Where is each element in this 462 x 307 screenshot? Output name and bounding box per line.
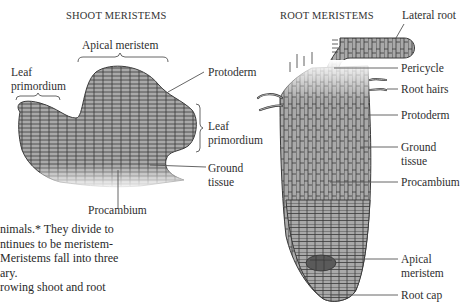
shoot-procambium-label: Procambium (88, 204, 147, 217)
root-protoderm-label: Protoderm (401, 109, 450, 122)
leaf-primordium-right-bracket (196, 104, 203, 152)
leaf-primordium-left-bracket (16, 93, 60, 100)
lateral-root-leader-line (396, 24, 404, 38)
root-procambium-label: Procambium (401, 176, 460, 189)
body-text-line: ary. (0, 266, 118, 281)
body-text-paragraph: nimals.* They divide to ntinues to be me… (0, 222, 118, 295)
root-ground-tissue-label-1: Ground (401, 141, 436, 154)
root-shape (276, 52, 374, 301)
shoot-leaf-primordium-right-label-2: primordium (208, 134, 263, 147)
body-text-line: Meristems fall into three (0, 251, 118, 266)
root-cap-label: Root cap (401, 289, 442, 302)
body-text-line: ntinues to be meristem- (0, 237, 118, 252)
root-lateral-root-label: Lateral root (402, 9, 456, 22)
protoderm-leader-line (168, 72, 204, 92)
body-text-line: rowing shoot and root (0, 280, 118, 295)
shoot-leaf-primordium-right-label-1: Leaf (208, 120, 229, 133)
shoot-protoderm-label: Protoderm (208, 66, 257, 79)
root-pericycle-label: Pericycle (401, 62, 444, 75)
root-ground-tissue-label-2: tissue (401, 155, 427, 168)
shoot-leaf-primordium-left-label-2: primordium (11, 80, 66, 93)
root-apical-meristem-zone (306, 255, 336, 271)
root-hairs-label: Root hairs (401, 83, 449, 96)
apical-meristem-bracket (78, 53, 168, 62)
root-apical-meristem-label-2: meristem (401, 267, 444, 280)
shoot-meristems-title: SHOOT MERISTEMS (66, 10, 167, 21)
shoot-ground-tissue-label-2: tissue (208, 176, 234, 189)
body-text-line: nimals.* They divide to (0, 222, 118, 237)
root-meristems-title: ROOT MERISTEMS (280, 10, 374, 21)
shoot-leaf-primordium-left-label-1: Leaf (11, 66, 32, 79)
shoot-ground-tissue-label-1: Ground (208, 162, 243, 175)
shoot-apical-meristem-label: Apical meristem (82, 39, 158, 52)
root-apical-meristem-label-1: Apical (401, 253, 432, 266)
